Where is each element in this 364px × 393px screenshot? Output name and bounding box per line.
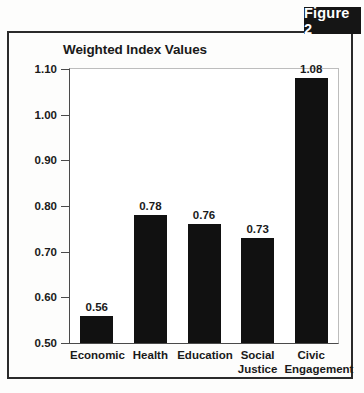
x-axis-label: Economic (70, 349, 124, 363)
figure-number-badge: Figure 2 (304, 7, 361, 34)
bar (80, 316, 113, 343)
y-axis-tick (61, 160, 70, 161)
bar-column: 0.73 (241, 223, 274, 343)
y-axis-label: 0.50 (35, 337, 57, 349)
chart-title: Weighted Index Values (63, 42, 207, 57)
figure-container: Figure 2 Weighted Index Values 1.101.000… (0, 0, 364, 393)
x-axis-label: Education (177, 349, 231, 363)
y-axis-tick (61, 206, 70, 207)
bar-column: 0.78 (134, 200, 167, 343)
x-axis-label: Health (124, 349, 178, 363)
y-axis-tick (61, 69, 70, 70)
y-axis-label: 1.00 (35, 109, 57, 121)
x-axis-label: Civic Engagement (284, 349, 338, 376)
y-axis-label: 0.70 (35, 246, 57, 258)
bar-column: 0.76 (188, 209, 221, 343)
bar (188, 224, 221, 343)
bar-column: 1.08 (295, 63, 328, 343)
bar (134, 215, 167, 343)
y-axis-tick (61, 252, 70, 253)
y-axis-tick (61, 343, 70, 344)
bar (295, 78, 328, 343)
y-axis-label: 0.90 (35, 154, 57, 166)
bar-value-label: 0.56 (86, 301, 108, 313)
bar (241, 238, 274, 343)
y-axis-label: 0.80 (35, 200, 57, 212)
plot-area: 1.101.000.900.800.700.600.50 0.560.780.7… (69, 68, 339, 344)
x-axis-label: Social Justice (231, 349, 285, 376)
bar-value-label: 0.78 (139, 200, 161, 212)
y-axis-tick (61, 297, 70, 298)
bar-value-label: 1.08 (300, 63, 322, 75)
y-axis-label: 1.10 (35, 63, 57, 75)
y-axis-tick (61, 115, 70, 116)
bar-value-label: 0.76 (193, 209, 215, 221)
bar-value-label: 0.73 (246, 223, 268, 235)
y-axis-label: 0.60 (35, 291, 57, 303)
bar-column: 0.56 (80, 301, 113, 343)
